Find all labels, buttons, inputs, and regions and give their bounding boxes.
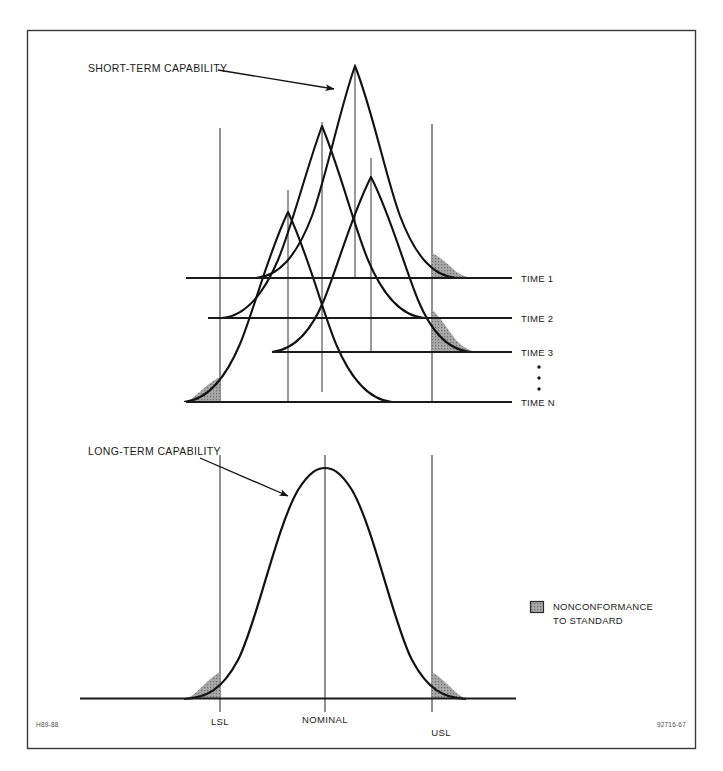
- capability-diagram: TIME 1 TIME 2 TIME 3 TIME N SHORT-TERM C…: [0, 0, 723, 771]
- document-code-bottom-right: 92716-67: [657, 721, 686, 728]
- shade-long-term-lower-tail: [186, 672, 220, 698]
- curve-time-1: [256, 66, 456, 278]
- legend-swatch-nonconformance: [531, 602, 544, 613]
- curve-time-2: [222, 126, 424, 318]
- time-label-3: TIME 3: [521, 347, 553, 358]
- long-term-leader-line: [200, 458, 288, 496]
- legend-label-line2: TO STANDARD: [553, 615, 623, 626]
- shade-time-n-lower-tail: [186, 377, 220, 402]
- long-term-capability-label: LONG-TERM CAPABILITY: [88, 445, 221, 457]
- short-term-capability-label: SHORT-TERM CAPABILITY: [88, 62, 227, 74]
- axis-label-usl: USL: [431, 727, 451, 738]
- shade-time-3-upper-tail: [432, 310, 478, 352]
- document-code-bottom-left: H89-88: [36, 721, 59, 728]
- time-label-1: TIME 1: [521, 273, 553, 284]
- figure-root: TIME 1 TIME 2 TIME 3 TIME N SHORT-TERM C…: [0, 0, 723, 771]
- time-label-2: TIME 2: [521, 313, 553, 324]
- short-term-leader-line: [218, 70, 334, 89]
- figure-border: [28, 31, 696, 749]
- time-label-n: TIME N: [521, 397, 555, 408]
- legend-label-line1: NONCONFORMANCE: [553, 601, 653, 612]
- ellipsis-dots: [537, 365, 540, 390]
- axis-label-lsl: LSL: [211, 716, 229, 727]
- shade-time-1-upper-tail: [432, 253, 474, 278]
- shade-long-term-upper-tail: [432, 672, 466, 698]
- axis-label-nominal: NOMINAL: [302, 714, 348, 725]
